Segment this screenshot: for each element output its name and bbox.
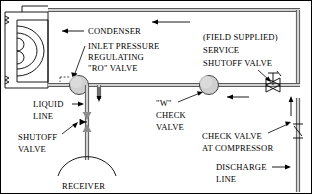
condenser-inner-box xyxy=(17,20,48,82)
inlet-pressure-label-line3: "RO" VALVE xyxy=(88,63,138,73)
ro-valve-leader xyxy=(74,46,85,76)
service-label: SERVICE xyxy=(203,45,239,55)
w-check-valve-label-line2: CHECK xyxy=(156,110,187,120)
top-line-flow-arrow xyxy=(152,20,190,25)
receiver: RECEIVER xyxy=(58,157,116,191)
condenser-unit xyxy=(5,6,48,88)
check-valve-compressor-label-group: CHECK VALVE AT COMPRESSOR xyxy=(202,122,291,153)
w-check-valve-label-group: "W" CHECK VALVE xyxy=(156,91,203,132)
condenser-coil-inner-upper xyxy=(17,38,24,51)
discharge-line-label-line2: LINE xyxy=(216,174,236,184)
check-valve-compressor-label-line2: AT COMPRESSOR xyxy=(202,143,273,153)
shutoff-valve-label-line1: SHUTOFF xyxy=(18,132,57,142)
discharge-line-vertical xyxy=(289,96,298,192)
condenser-casing xyxy=(5,12,48,88)
w-check-valve-label-line3: VALVE xyxy=(156,122,184,132)
w-check-valve-label-line1: "W" xyxy=(156,98,172,108)
shutoff-valve-label-line2: VALVE xyxy=(18,144,46,154)
condenser-break-bottom xyxy=(5,76,9,84)
service-valve-inlet-arrow xyxy=(227,95,249,100)
condenser-label: CONDENSER xyxy=(88,26,141,36)
discharge-line-label-line1: DISCHARGE xyxy=(216,162,267,172)
shutoff-valve-leader xyxy=(62,124,75,134)
condenser-coil-inner-lower xyxy=(17,51,24,64)
liquid-line-down-arrow xyxy=(83,112,92,120)
inlet-pressure-label-line1: INLET PRESSURE xyxy=(88,41,159,51)
check-valve-compressor-label-line1: CHECK VALVE xyxy=(202,131,262,141)
receiver-label: RECEIVER xyxy=(62,181,105,191)
service-shutoff-label-group: (FIELD SUPPLIED) SERVICE SHUTOFF VALVE xyxy=(203,32,278,82)
service-shutoff-valve xyxy=(266,71,281,92)
ro-valve-outlet-tee xyxy=(97,85,102,102)
inlet-pressure-label-line2: REGULATING xyxy=(88,52,144,62)
liquid-line-label-line2: LINE xyxy=(33,111,53,121)
w-check-valve-leader xyxy=(178,93,200,102)
condenser-label-group: CONDENSER xyxy=(62,26,141,36)
w-check-valve xyxy=(200,76,219,95)
ro-valve-label-group: INLET PRESSURE REGULATING "RO" VALVE xyxy=(71,41,159,79)
shutoff-valve-label-group: SHUTOFF VALVE xyxy=(18,122,78,154)
condenser-top-stub xyxy=(22,6,48,12)
ro-valve-inlet-stub xyxy=(60,77,70,82)
liquid-line-label-group: LIQUID LINE xyxy=(33,99,84,121)
liquid-line-up-arrow xyxy=(83,124,92,132)
check-valve-compressor-leader xyxy=(268,124,288,133)
discharge-line-label-group: DISCHARGE LINE xyxy=(216,162,291,184)
liquid-line-label-line1: LIQUID xyxy=(33,99,64,109)
field-supplied-label: (FIELD SUPPLIED) xyxy=(203,32,278,42)
shutoff-valve-label: SHUTOFF VALVE xyxy=(203,58,272,68)
top-hot-gas-line xyxy=(48,10,300,84)
refrigeration-piping-diagram: CONDENSER INLET PRESSURE REGULATING "RO"… xyxy=(0,0,312,194)
condenser-break-top xyxy=(5,16,9,24)
